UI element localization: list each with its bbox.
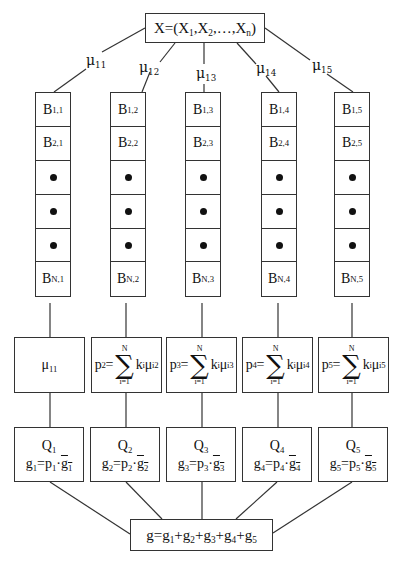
ellipsis-cell: [35, 194, 71, 229]
p-formula-box-3: p3= N∑i=1 kiμi3: [166, 337, 237, 393]
dot-icon: [349, 208, 356, 215]
dot-icon: [125, 208, 132, 215]
input-vector-label: X=(X1,X2,…,Xn): [154, 20, 256, 37]
p-formula: μ11: [42, 357, 58, 373]
dot-icon: [50, 174, 57, 181]
ellipsis-cell: [334, 160, 370, 195]
g-formula: g1=p1·g1: [26, 455, 73, 473]
block-cell: BN,4: [261, 261, 297, 296]
dot-icon: [276, 174, 283, 181]
output-sum-formula: g=g1+g2+g3+g4+g5: [146, 527, 257, 544]
ellipsis-cell: [261, 160, 297, 195]
block-column-1: B1,1 B2,1 BN,1: [35, 92, 71, 297]
q-label: Q4: [270, 437, 284, 455]
p-formula-box-4: p4= N∑i=1 kiμi4: [242, 337, 313, 393]
q-box-4: Q4 g4=p4·g4: [242, 427, 312, 482]
weight-label-mu15: μ15: [312, 57, 332, 73]
p-formula-box-2: p2= N∑i=1 kiμi2: [91, 337, 162, 393]
block-cell: B1,3: [185, 92, 221, 127]
q-box-5: Q5 g5=p5·g5: [318, 427, 388, 482]
block-cell: B2,4: [261, 126, 297, 161]
ellipsis-cell: [110, 160, 146, 195]
dot-icon: [125, 174, 132, 181]
q-box-1: Q1 g1=p1·g1: [14, 427, 84, 482]
p-formula: p4= N∑i=1 kiμi4: [246, 344, 310, 386]
dot-icon: [349, 174, 356, 181]
dot-icon: [50, 242, 57, 249]
q-box-2: Q2 g2=p2·g2: [90, 427, 160, 482]
p-formula-box-5: p5= N∑i=1 kiμi5: [318, 337, 389, 393]
block-cell: BN,5: [334, 261, 370, 296]
dot-icon: [349, 242, 356, 249]
block-cell: B1,1: [35, 92, 71, 127]
ellipsis-cell: [110, 194, 146, 229]
block-cell: B1,4: [261, 92, 297, 127]
p-formula: p5= N∑i=1 kiμi5: [322, 344, 386, 386]
q-label: Q1: [42, 437, 56, 455]
ellipsis-cell: [185, 160, 221, 195]
dot-icon: [50, 208, 57, 215]
g-formula: g4=p4·g4: [254, 455, 301, 473]
block-cell: BN,3: [185, 261, 221, 296]
block-cell: B2,1: [35, 126, 71, 161]
ellipsis-cell: [185, 228, 221, 263]
input-vector-box: X=(X1,X2,…,Xn): [145, 13, 265, 43]
q-label: Q3: [194, 437, 208, 455]
g-formula: g2=p2·g2: [102, 455, 149, 473]
ellipsis-cell: [334, 228, 370, 263]
g-formula: g5=p5·g5: [330, 455, 377, 473]
p-formula: p2= N∑i=1 kiμi2: [95, 344, 159, 386]
dot-icon: [200, 208, 207, 215]
ellipsis-cell: [185, 194, 221, 229]
g-formula: g3=p3·g3: [178, 455, 225, 473]
sigma-icon: N∑i=1: [266, 344, 284, 386]
weight-label-mu13: μ13: [196, 65, 216, 81]
ellipsis-cell: [334, 194, 370, 229]
q-label: Q5: [346, 437, 360, 455]
block-column-5: B1,5 B2,5 BN,5: [334, 92, 370, 297]
sigma-icon: N∑i=1: [342, 344, 360, 386]
weight-label-mu14: μ14: [256, 60, 276, 76]
block-cell: B1,2: [110, 92, 146, 127]
block-column-2: B1,2 B2,2 BN,2: [110, 92, 146, 297]
ellipsis-cell: [110, 228, 146, 263]
dot-icon: [125, 242, 132, 249]
block-cell: BN,1: [35, 261, 71, 296]
sigma-icon: N∑i=1: [115, 344, 133, 386]
weight-label-mu12: μ12: [139, 59, 159, 75]
ellipsis-cell: [261, 194, 297, 229]
block-cell: BN,2: [110, 261, 146, 296]
block-cell: B2,3: [185, 126, 221, 161]
block-column-4: B1,4 B2,4 BN,4: [261, 92, 297, 297]
p-formula: p3= N∑i=1 kiμi3: [170, 344, 234, 386]
p-formula-box-1: μ11: [14, 337, 85, 393]
output-sum-box: g=g1+g2+g3+g4+g5: [130, 519, 273, 551]
block-cell: B1,5: [334, 92, 370, 127]
dot-icon: [200, 174, 207, 181]
dot-icon: [276, 208, 283, 215]
q-label: Q2: [118, 437, 132, 455]
ellipsis-cell: [35, 228, 71, 263]
sigma-icon: N∑i=1: [190, 344, 208, 386]
block-column-3: B1,3 B2,3 BN,3: [185, 92, 221, 297]
dot-icon: [200, 242, 207, 249]
block-cell: B2,2: [110, 126, 146, 161]
dot-icon: [276, 242, 283, 249]
ellipsis-cell: [35, 160, 71, 195]
weight-label-mu11: μ11: [86, 52, 106, 68]
q-box-3: Q3 g3=p3·g3: [166, 427, 236, 482]
block-cell: B2,5: [334, 126, 370, 161]
ellipsis-cell: [261, 228, 297, 263]
